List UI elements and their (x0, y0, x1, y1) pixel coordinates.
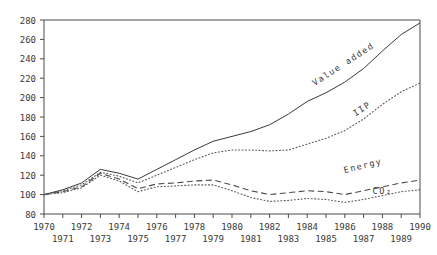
y-axis-tick-label: 220 (20, 74, 36, 84)
x-axis-tick-label: 1981 (240, 234, 262, 244)
series-line-energy (44, 173, 420, 194)
y-axis-tick-label: 180 (20, 113, 36, 123)
series-label-value-added: Value added (310, 40, 376, 87)
x-axis-tick-label: 1977 (165, 234, 187, 244)
y-axis-tick-label: 120 (20, 171, 36, 181)
y-axis-tick-label: 80 (25, 210, 36, 220)
x-axis-tick-label: 1987 (353, 234, 375, 244)
x-axis-tick-label: 1970 (33, 222, 55, 232)
y-axis-tick-label: 280 (20, 16, 36, 26)
y-axis-tick-label: 260 (20, 35, 36, 45)
x-axis-tick-label: 1973 (90, 234, 112, 244)
y-axis-tick-label: 140 (20, 151, 36, 161)
x-axis-tick-label: 1979 (202, 234, 224, 244)
series-label-iip: IIP (351, 99, 373, 118)
x-axis-tick-label: 1978 (184, 222, 206, 232)
x-axis-tick-label: 1982 (259, 222, 281, 232)
x-axis-tick-label: 1983 (278, 234, 300, 244)
x-axis-tick-label: 1980 (221, 222, 243, 232)
y-axis-tick-label: 100 (20, 190, 36, 200)
x-axis-tick-label: 1984 (296, 222, 318, 232)
y-axis-tick-label: 160 (20, 132, 36, 142)
y-axis-tick-label: 200 (20, 93, 36, 103)
x-axis-tick-label: 1988 (372, 222, 394, 232)
series-line-co2 (44, 175, 420, 202)
series-label-energy: Energy (343, 156, 383, 175)
x-axis-tick-label: 1976 (146, 222, 168, 232)
x-axis-tick-label: 1974 (108, 222, 130, 232)
series-label-co2: CO₂ (373, 186, 393, 196)
x-axis-tick-label: 1990 (409, 222, 431, 232)
chart-figure: 8010012014016018020022024026028019701971… (0, 0, 437, 255)
x-axis-tick-label: 1989 (390, 234, 412, 244)
x-axis-tick-label: 1986 (334, 222, 356, 232)
x-axis-tick-label: 1975 (127, 234, 149, 244)
x-axis-tick-label: 1972 (71, 222, 93, 232)
x-axis-tick-label: 1985 (315, 234, 337, 244)
y-axis-tick-label: 240 (20, 54, 36, 64)
series-line-iip (44, 83, 420, 195)
x-axis-tick-label: 1971 (52, 234, 74, 244)
line-chart-canvas: 8010012014016018020022024026028019701971… (0, 0, 437, 255)
